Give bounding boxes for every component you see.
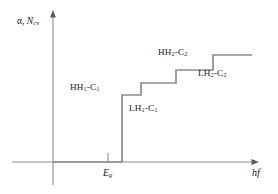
step-label-lh1-c1-main: LH [129, 103, 142, 113]
step-label-lh2-c2-mid: -C [214, 68, 224, 78]
step-label-hh1-c1-main: HH [70, 82, 84, 92]
step-label-lh1-c1-sub2: 1 [154, 106, 157, 113]
step-label-hh2-c2-mid: -C [175, 47, 185, 57]
y-axis-label: α, Ncv [17, 16, 39, 27]
y-axis-label-sub: cv [33, 19, 39, 26]
eg-tick-label: Eg [103, 168, 112, 179]
step-label-hh1-c1-sub2: 1 [96, 85, 99, 92]
step-label-lh1-c1: LH1-C1 [129, 104, 158, 114]
x-axis-arrowhead [252, 159, 260, 165]
step-label-hh2-c2-sub2: 2 [184, 50, 187, 57]
y-axis-label-alpha: α, [17, 15, 27, 26]
step-label-lh1-c1-mid: -C [145, 103, 155, 113]
step-label-lh2-c2-sub2: 2 [223, 71, 226, 78]
step-label-hh2-c2-main: HH [158, 47, 172, 57]
step-label-hh2-c2: HH2-C2 [158, 48, 188, 58]
step-label-hh1-c1-mid: -C [87, 82, 97, 92]
step-label-lh2-c2-main: LH [198, 68, 211, 78]
eg-subscript: g [109, 171, 112, 178]
step-label-lh2-c2: LH2-C2 [198, 69, 227, 79]
plot-canvas [0, 0, 278, 194]
absorption-staircase-figure: α, Ncv hf Eg HH1-C1 LH1-C1 HH2-C2 LH2-C2 [0, 0, 278, 194]
x-axis-label: hf [252, 168, 260, 178]
y-axis-arrowhead [50, 10, 56, 18]
step-label-hh1-c1: HH1-C1 [70, 83, 100, 93]
